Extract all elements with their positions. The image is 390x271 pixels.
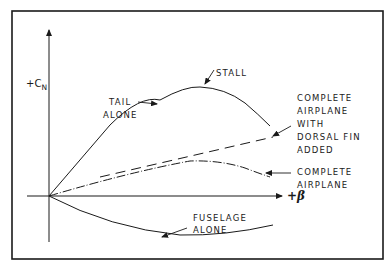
y-axis-label: +CN bbox=[26, 78, 47, 92]
svg-text:ALONE: ALONE bbox=[103, 110, 138, 120]
curve-complete-with-dorsal-fin bbox=[100, 137, 273, 177]
svg-text:WITH: WITH bbox=[297, 119, 324, 129]
annotation-stall: STALL bbox=[205, 68, 247, 84]
svg-text:AIRPLANE: AIRPLANE bbox=[297, 106, 348, 116]
svg-text:COMPLETE: COMPLETE bbox=[297, 93, 352, 103]
yawing-moment-diagram: +CN +β STALL TAIL ALONE COMPLETE AIRPLAN… bbox=[0, 0, 390, 271]
svg-text:+CN: +CN bbox=[26, 78, 47, 92]
svg-text:FUSELAGE: FUSELAGE bbox=[193, 213, 247, 223]
annotation-complete-with-dorsal-fin: COMPLETE AIRPLANE WITH DORSAL FIN ADDED bbox=[273, 93, 361, 155]
svg-text:ADDED: ADDED bbox=[297, 145, 334, 155]
svg-text:AIRPLANE: AIRPLANE bbox=[297, 180, 348, 190]
svg-text:TAIL: TAIL bbox=[108, 97, 131, 107]
svg-text:ALONE: ALONE bbox=[193, 225, 228, 235]
svg-text:DORSAL FIN: DORSAL FIN bbox=[297, 132, 361, 142]
curve-tail-alone bbox=[49, 87, 270, 196]
svg-text:COMPLETE: COMPLETE bbox=[297, 167, 352, 177]
curve-complete-airplane bbox=[49, 161, 270, 196]
annotation-complete-airplane: COMPLETE AIRPLANE bbox=[266, 167, 352, 190]
svg-text:STALL: STALL bbox=[216, 68, 247, 78]
annotation-fuselage-alone: FUSELAGE ALONE bbox=[162, 213, 247, 237]
x-axis-label: +β bbox=[287, 189, 305, 203]
